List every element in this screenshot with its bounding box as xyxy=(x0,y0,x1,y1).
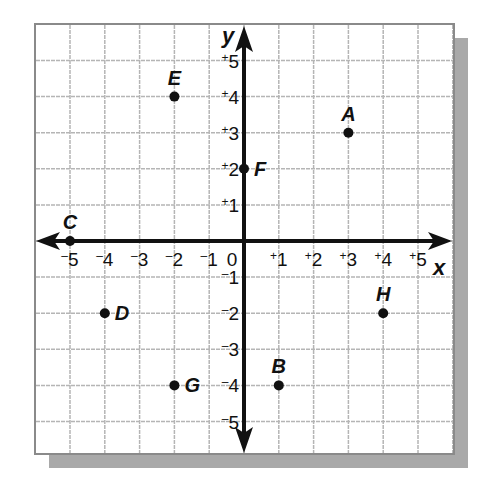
point-label: D xyxy=(115,302,129,324)
point-marker-icon xyxy=(343,128,353,138)
point-label: C xyxy=(63,211,78,233)
point-marker-icon xyxy=(239,164,249,174)
point-label: A xyxy=(340,103,355,125)
point-marker-icon xyxy=(169,380,179,390)
point-marker-icon xyxy=(274,380,284,390)
point-marker-icon xyxy=(378,308,388,318)
x-axis-label: x xyxy=(432,255,446,280)
point-label: G xyxy=(184,374,200,396)
coordinate-plane: –5–4–3–2–10+1+2+3+4+5+5+4+3+2+1–1–2–3–4–… xyxy=(0,0,493,498)
point-label: H xyxy=(376,283,391,305)
point-marker-icon xyxy=(65,236,75,246)
point-marker-icon xyxy=(169,92,179,102)
point-label: F xyxy=(254,158,267,180)
y-axis-label: y xyxy=(221,23,236,48)
point-label: B xyxy=(272,355,286,377)
point-label: E xyxy=(168,67,182,89)
point-marker-icon xyxy=(100,308,110,318)
